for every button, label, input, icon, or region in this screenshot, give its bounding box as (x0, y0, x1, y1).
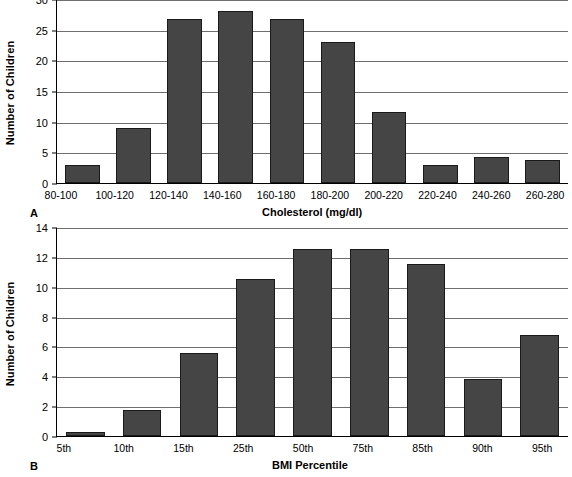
x-axis-title-a: Cholesterol (mg/dl) (262, 206, 362, 218)
y-tick-label: 4 (42, 372, 48, 383)
x-tick-label: 85th (393, 442, 453, 454)
y-tick-label: 14 (36, 223, 48, 234)
plot-area-a (56, 0, 568, 184)
bar-slot (466, 0, 517, 183)
bar (464, 379, 503, 436)
bar-slot (210, 0, 261, 183)
bar-slot (341, 228, 398, 436)
chart-panel-b: Number of Children 02468101214 5th10th15… (0, 228, 572, 477)
y-tick-label: 15 (36, 87, 48, 98)
x-tick-label: 15th (154, 442, 214, 454)
x-tick-label: 50th (273, 442, 333, 454)
bar (65, 165, 100, 183)
y-tick-label: 6 (42, 342, 48, 353)
bar (66, 432, 105, 436)
bar (423, 165, 458, 183)
bar (520, 335, 559, 437)
bar-slot (114, 228, 171, 436)
bar (236, 279, 275, 436)
x-tick-label: 95th (512, 442, 572, 454)
bar-slot (312, 0, 363, 183)
bar (525, 160, 560, 183)
y-tick-label: 2 (42, 402, 48, 413)
x-axis-ticks-a: 80-100100-120120-140140-160160-180180-20… (34, 189, 572, 201)
plot-area-wrapper-b: 02468101214 (22, 228, 568, 439)
x-tick-label: 25th (213, 442, 273, 454)
bar-slot (398, 228, 455, 436)
x-tick-label: 90th (452, 442, 512, 454)
y-tick-label: 10 (36, 282, 48, 293)
y-axis-title-a: Number of Children (0, 0, 20, 186)
figure-root: Number of Children 051015202530 80-10010… (0, 0, 572, 477)
bar-slot (261, 0, 312, 183)
bar (123, 410, 162, 436)
x-tick-label: 100-120 (88, 189, 142, 201)
x-tick-label: 260-280 (518, 189, 572, 201)
x-tick-label: 200-220 (357, 189, 411, 201)
bar (270, 19, 305, 183)
y-axis-title-b: Number of Children (0, 228, 20, 439)
y-tick-label: 20 (36, 56, 48, 67)
bar (218, 11, 253, 183)
bar (407, 264, 446, 436)
bar-slot (171, 228, 228, 436)
x-tick-label: 75th (333, 442, 393, 454)
x-tick-label: 160-180 (249, 189, 303, 201)
bar (474, 157, 509, 183)
bar-slot (227, 228, 284, 436)
y-tick-label: 0 (42, 179, 48, 190)
bar-slot (57, 0, 108, 183)
chart-panel-a: Number of Children 051015202530 80-10010… (0, 0, 572, 224)
y-tick-label: 25 (36, 25, 48, 36)
bar-series-a (57, 0, 568, 183)
bar (167, 19, 202, 183)
x-tick-label: 5th (34, 442, 94, 454)
x-tick-label: 140-160 (195, 189, 249, 201)
x-tick-label: 240-260 (464, 189, 518, 201)
bar-series-b (57, 228, 568, 436)
x-tick-label: 10th (94, 442, 154, 454)
y-tick-label: 5 (42, 148, 48, 159)
panel-letter-b: B (30, 460, 38, 472)
panel-letter-a: A (30, 207, 38, 219)
y-tick-label: 0 (42, 432, 48, 443)
bar-slot (517, 0, 568, 183)
bar-slot (108, 0, 159, 183)
bar-slot (284, 228, 341, 436)
bar-slot (159, 0, 210, 183)
bar-slot (364, 0, 415, 183)
y-tick-label: 30 (36, 0, 48, 6)
bar (116, 128, 151, 183)
bar (350, 249, 389, 436)
x-tick-label: 180-200 (303, 189, 357, 201)
bar-slot (511, 228, 568, 436)
bar-slot (415, 0, 466, 183)
bar (372, 112, 407, 183)
bar-slot (57, 228, 114, 436)
x-tick-label: 80-100 (34, 189, 88, 201)
bar (180, 353, 219, 436)
y-tick-label: 10 (36, 117, 48, 128)
bar (293, 249, 332, 436)
plot-area-wrapper-a: 051015202530 (22, 0, 568, 186)
x-tick-label: 120-140 (142, 189, 196, 201)
y-tick-label: 12 (36, 252, 48, 263)
x-tick-label: 220-240 (411, 189, 465, 201)
bar-slot (454, 228, 511, 436)
bar (321, 42, 356, 183)
x-axis-ticks-b: 5th10th15th25th50th75th85th90th95th (34, 442, 572, 454)
y-tick-label: 8 (42, 312, 48, 323)
x-axis-title-b: BMI Percentile (272, 459, 348, 471)
plot-area-b (56, 228, 568, 437)
